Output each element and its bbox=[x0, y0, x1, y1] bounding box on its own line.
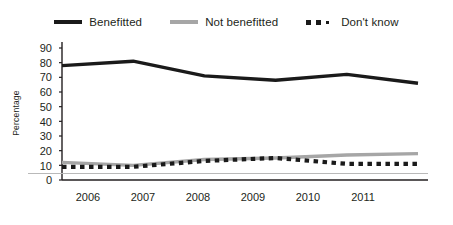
legend-label-benefitted: Benefitted bbox=[89, 16, 142, 28]
legend-label-not-benefitted: Not benefitted bbox=[205, 16, 278, 28]
chart-series-layer bbox=[0, 34, 453, 199]
dashed-black-line-swatch bbox=[306, 17, 334, 28]
legend-item-dont-know: Don't know bbox=[306, 16, 399, 28]
series-line-not-benefitted bbox=[62, 154, 418, 166]
chart-legend: Benefitted Not benefitted Don't know bbox=[0, 12, 453, 32]
solid-black-line-swatch bbox=[54, 17, 82, 28]
footer-divider-rule bbox=[28, 173, 428, 174]
legend-item-not-benefitted: Not benefitted bbox=[170, 16, 278, 28]
chart-figure: Benefitted Not benefitted Don't know Per… bbox=[0, 0, 453, 225]
plot-area: Percentage 90 80 70 60 50 40 30 20 10 0 … bbox=[0, 34, 453, 199]
solid-gray-line-swatch bbox=[170, 17, 198, 28]
legend-label-dont-know: Don't know bbox=[341, 16, 399, 28]
legend-item-benefitted: Benefitted bbox=[54, 16, 142, 28]
series-line-benefitted bbox=[62, 61, 418, 83]
